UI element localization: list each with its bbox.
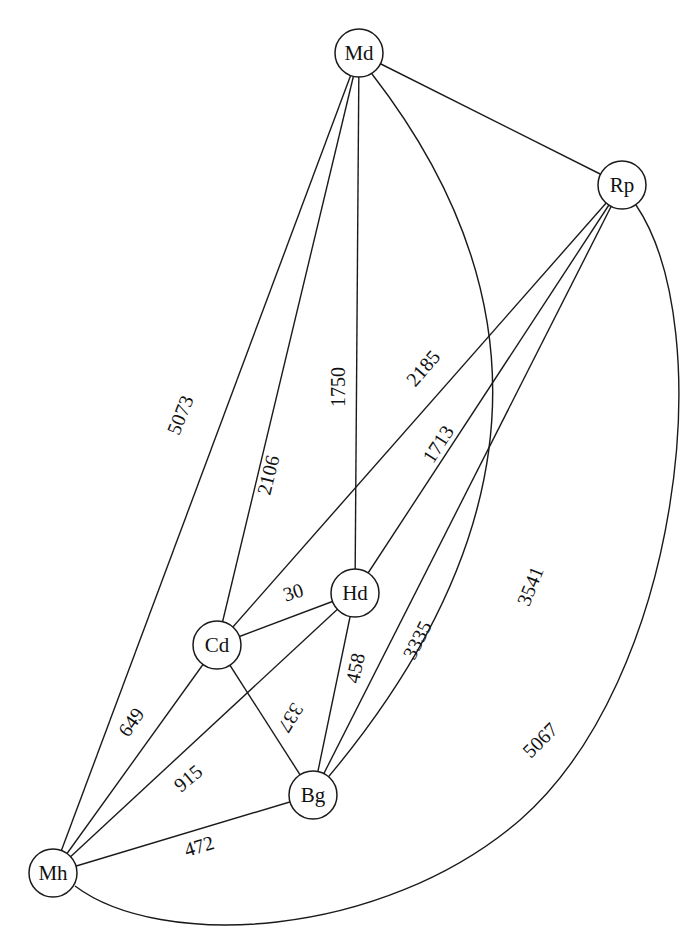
edge-label-md-hd: 1750 <box>327 367 349 407</box>
edge-md-cd <box>217 53 359 645</box>
node-label-rp: Rp <box>610 173 635 197</box>
node-label-hd: Hd <box>342 581 368 605</box>
edge-label-hd-mh: 915 <box>169 760 206 796</box>
graph-canvas: 5073 2106 1750 2185 1713 3335 3541 5067 … <box>0 0 688 939</box>
node-mh: Mh <box>29 849 77 897</box>
node-rp: Rp <box>598 161 646 209</box>
node-label-bg: Bg <box>301 783 326 807</box>
edge-rp-mh <box>75 205 679 925</box>
node-bg: Bg <box>289 771 337 819</box>
edge-label-bg-mh: 472 <box>181 831 216 861</box>
edge-rp-hd <box>355 185 622 593</box>
edge-label-cd-mh: 649 <box>113 703 148 740</box>
edge-label-md-cd: 2106 <box>252 453 283 497</box>
node-label-md: Md <box>344 41 374 65</box>
node-label-mh: Mh <box>38 861 68 885</box>
edge-rp-bg <box>313 185 622 795</box>
edge-label-rp-bg: 3335 <box>398 617 436 663</box>
edge-label-md-bg: 3541 <box>512 563 547 608</box>
edge-md-rp <box>359 53 622 185</box>
edge-bg-mh <box>53 795 313 873</box>
edge-label-rp-cd: 2185 <box>402 346 445 391</box>
edge-label-rp-mh: 5067 <box>518 718 562 762</box>
edge-rp-cd <box>217 185 622 645</box>
edge-label-md-mh: 5073 <box>162 392 197 437</box>
edge-label-cd-hd: 30 <box>280 578 306 605</box>
node-md: Md <box>335 29 383 77</box>
node-cd: Cd <box>193 621 241 669</box>
edge-md-mh <box>53 53 359 873</box>
edge-label-cd-bg: 337 <box>274 699 309 736</box>
edges <box>53 53 679 925</box>
node-label-cd: Cd <box>205 633 230 657</box>
edge-hd-bg <box>313 593 355 795</box>
edge-md-hd <box>355 53 359 593</box>
node-hd: Hd <box>331 569 379 617</box>
edge-label-hd-bg: 458 <box>341 651 369 685</box>
